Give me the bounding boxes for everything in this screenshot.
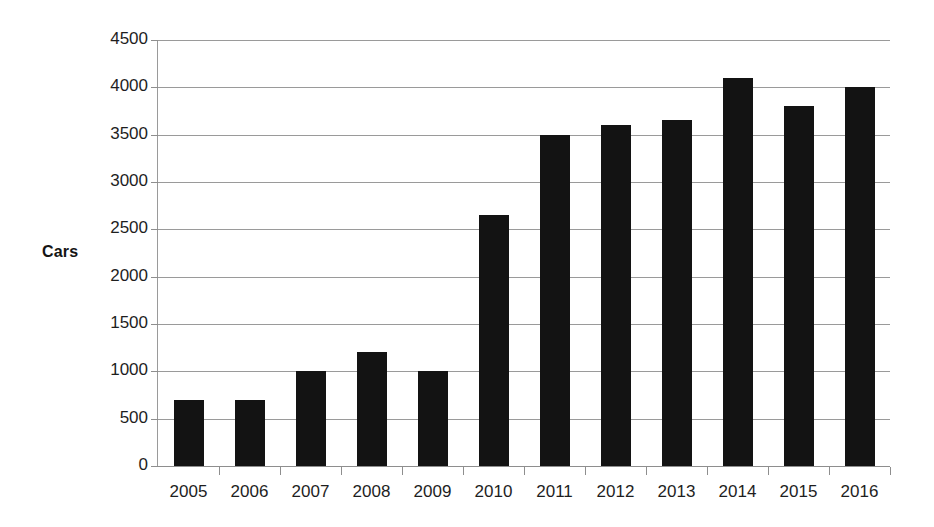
x-tick-mark	[707, 467, 708, 475]
bar-chart: Cars 05001000150020002500300035004000450…	[0, 0, 934, 527]
bar	[540, 135, 570, 466]
bar	[601, 125, 631, 466]
x-tick-mark	[585, 467, 586, 475]
x-tick-label: 2010	[463, 482, 524, 502]
bar	[296, 371, 326, 466]
x-tick-mark	[402, 467, 403, 475]
x-tick-label: 2013	[646, 482, 707, 502]
y-tick-label: 1500	[110, 313, 148, 333]
bar	[235, 400, 265, 466]
x-tick-label: 2009	[402, 482, 463, 502]
y-axis-title: Cars	[42, 243, 78, 261]
x-tick-mark	[646, 467, 647, 475]
y-tick-label: 2000	[110, 266, 148, 286]
y-tick-label: 1000	[110, 360, 148, 380]
x-tick-label: 2007	[280, 482, 341, 502]
y-tick-label: 4000	[110, 76, 148, 96]
x-tick-label: 2016	[829, 482, 890, 502]
bar	[174, 400, 204, 466]
bars	[158, 40, 890, 466]
bar	[845, 87, 875, 466]
bar	[357, 352, 387, 466]
x-tick-mark	[341, 467, 342, 475]
x-tick-mark	[768, 467, 769, 475]
x-tick-label: 2006	[219, 482, 280, 502]
x-tick-label: 2008	[341, 482, 402, 502]
x-tick-mark	[829, 467, 830, 475]
y-tick-label: 0	[139, 455, 148, 475]
bar	[418, 371, 448, 466]
bar	[784, 106, 814, 466]
y-tick-label: 3000	[110, 171, 148, 191]
bar	[479, 215, 509, 466]
x-tick-mark	[219, 467, 220, 475]
bar	[723, 78, 753, 466]
y-tick-label: 4500	[110, 29, 148, 49]
x-tick-label: 2014	[707, 482, 768, 502]
plot-area	[158, 40, 890, 466]
bar	[662, 120, 692, 466]
x-tick-mark	[524, 467, 525, 475]
x-tick-label: 2012	[585, 482, 646, 502]
x-tick-mark	[280, 467, 281, 475]
x-tick-label: 2005	[158, 482, 219, 502]
x-tick-label: 2015	[768, 482, 829, 502]
x-tick-label: 2011	[524, 482, 585, 502]
x-tick-mark	[890, 467, 891, 475]
y-tick-label: 500	[120, 408, 148, 428]
x-tick-mark	[463, 467, 464, 475]
y-tick-label: 3500	[110, 124, 148, 144]
y-tick-label: 2500	[110, 218, 148, 238]
